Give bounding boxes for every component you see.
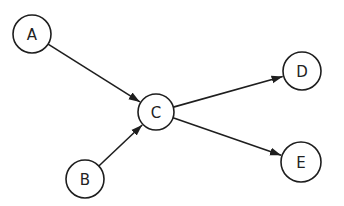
arrow-icon [99, 125, 142, 166]
node-label: E [296, 154, 305, 172]
edge-c-to-d [173, 76, 282, 107]
node-label: A [27, 26, 38, 44]
arrow-icon [173, 76, 282, 107]
node-label: B [80, 171, 90, 189]
node-d: D [283, 52, 321, 90]
nodes-layer: ABCDE [13, 15, 321, 198]
node-a: A [13, 15, 51, 53]
node-e: E [281, 142, 321, 182]
node-label: D [296, 63, 308, 81]
edge-c-to-e [173, 118, 281, 155]
arrow-icon [48, 44, 140, 102]
edge-b-to-c [99, 125, 142, 166]
arrow-icon [173, 118, 281, 155]
node-b: B [66, 160, 104, 198]
node-label: C [151, 104, 161, 122]
graph-canvas: ABCDE [0, 0, 344, 206]
edge-a-to-c [48, 44, 140, 102]
node-c: C [138, 94, 174, 130]
